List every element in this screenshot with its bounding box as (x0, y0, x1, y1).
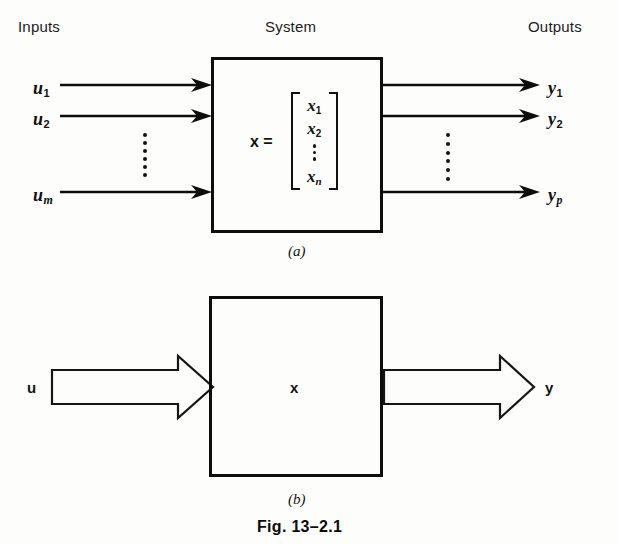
header-system: System (265, 18, 316, 35)
output-ellipsis (445, 133, 451, 181)
state-vector-ellipsis (313, 142, 317, 163)
output-block-arrow (383, 352, 538, 422)
output-arrow-1 (383, 76, 543, 94)
input-arrow-1 (60, 76, 215, 94)
bracket-right (329, 92, 338, 190)
output-label-y2: y2 (548, 110, 562, 128)
panel-b-input-label: u (27, 379, 36, 396)
state-element-xn: xn (307, 168, 322, 185)
output-arrow-p (383, 183, 543, 201)
header-outputs: Outputs (528, 18, 582, 35)
input-block-arrow (50, 352, 218, 422)
output-label-yp: yp (548, 186, 562, 204)
header-inputs: Inputs (18, 18, 60, 35)
state-vector-column: x1 x2 xn (300, 92, 329, 190)
state-equation-label: x = (250, 133, 273, 151)
panel-b-state-label: x (290, 379, 298, 396)
output-arrow-2 (383, 107, 543, 125)
bracket-left (291, 92, 300, 190)
output-label-y1: y1 (548, 79, 562, 97)
panel-b-output-label: y (545, 379, 553, 396)
panel-a-caption: (a) (288, 243, 306, 260)
input-ellipsis (142, 133, 148, 177)
panel-b-caption: (b) (288, 491, 306, 508)
input-label-um: um (33, 186, 52, 204)
figure-canvas: Inputs System Outputs u1 u2 um x = x1 (0, 0, 619, 544)
figure-caption: Fig. 13–2.1 (257, 518, 342, 536)
input-label-u1: u1 (33, 79, 49, 97)
state-element-x1: x1 (307, 97, 321, 114)
input-label-u2: u2 (33, 110, 49, 128)
input-arrow-m (60, 183, 215, 201)
input-arrow-2 (60, 107, 215, 125)
state-vector-matrix: x1 x2 xn (291, 92, 338, 190)
state-element-x2: x2 (307, 120, 321, 137)
